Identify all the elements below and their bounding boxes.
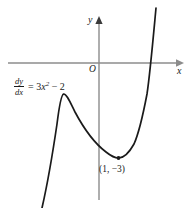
- x-axis: [8, 59, 184, 66]
- derivative-equation: dy dx = 3x2 − 2: [14, 77, 65, 97]
- x-axis-label: x: [177, 66, 181, 76]
- fraction-numerator: dy: [14, 77, 24, 86]
- equation-exponent: 2: [46, 80, 50, 88]
- equation-right-hand-side: = 3x2 − 2: [28, 82, 65, 92]
- plot-canvas: [0, 0, 191, 208]
- local-minimum-label: (1, −3): [99, 165, 125, 175]
- origin-label: O: [89, 65, 96, 75]
- fraction-denominator: dx: [14, 87, 24, 96]
- equation-equals-sign: =: [28, 81, 34, 92]
- cubic-curve-figure: y x O dy dx = 3x2 − 2 (1, −3): [0, 0, 191, 208]
- derivative-fraction: dy dx: [14, 77, 24, 97]
- y-axis-label: y: [88, 15, 92, 25]
- equation-minus-sign: −: [52, 81, 58, 92]
- turning-point-marker: [117, 156, 121, 160]
- equation-constant: 2: [60, 81, 65, 92]
- y-axis-arrowhead-icon: [95, 16, 102, 24]
